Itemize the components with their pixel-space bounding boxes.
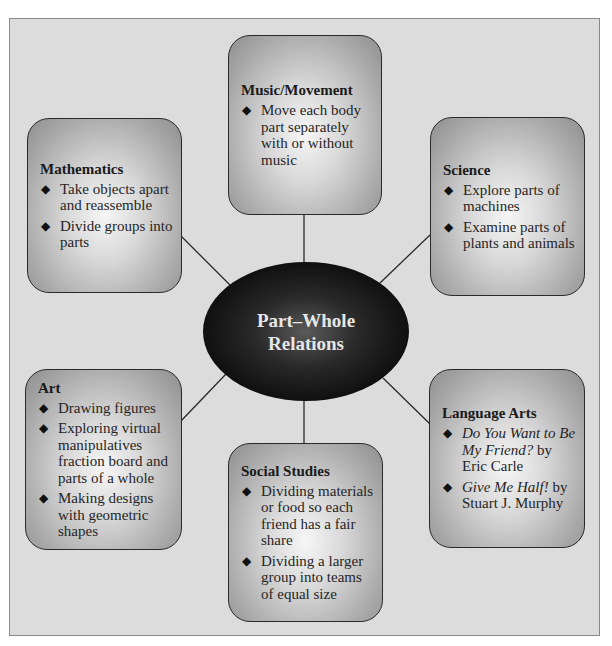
node-art: Art ◆ Drawing figures ◆ Exploring virtua… [25, 369, 182, 550]
node-title: Mathematics [40, 161, 173, 178]
diamond-bullet-icon: ◆ [39, 400, 48, 416]
book-title: Do You Want to Be My Friend? [462, 425, 575, 458]
node-list: ◆ Move each body part separately with or… [241, 102, 373, 168]
list-item: ◆ Exploring virtual manipulatives fracti… [38, 420, 173, 486]
node-title: Language Arts [442, 405, 576, 422]
list-item: ◆ Do You Want to Be My Friend? by Eric C… [442, 425, 576, 475]
book-title: Give Me Half! [462, 479, 549, 495]
list-item: ◆ Explore parts of machines [443, 182, 576, 215]
diamond-bullet-icon: ◆ [444, 219, 453, 235]
node-mathematics: Mathematics ◆ Take objects apart and rea… [27, 118, 182, 293]
connector-art [181, 374, 226, 421]
list-item: ◆ Take objects apart and reassemble [40, 181, 173, 214]
list-item: ◆ Dividing a larger group into teams of … [241, 553, 374, 603]
node-list: ◆ Explore parts of machines ◆ Examine pa… [443, 182, 576, 252]
connector-language-arts [383, 378, 430, 424]
list-item: ◆ Move each body part separately with or… [241, 102, 373, 168]
node-science: Science ◆ Explore parts of machines ◆ Ex… [430, 117, 585, 296]
node-list: ◆ Dividing materials or food so each fri… [241, 483, 374, 603]
diamond-bullet-icon: ◆ [443, 479, 452, 495]
node-list: ◆ Take objects apart and reassemble ◆ Di… [40, 181, 173, 251]
diamond-bullet-icon: ◆ [41, 181, 50, 197]
node-list: ◆ Do You Want to Be My Friend? by Eric C… [442, 425, 576, 512]
diamond-bullet-icon: ◆ [242, 102, 251, 118]
central-topic-title: Part–Whole Relations [257, 309, 355, 355]
diamond-bullet-icon: ◆ [443, 425, 452, 441]
node-title: Art [38, 380, 173, 397]
list-item: ◆ Making designs with geometric shapes [38, 490, 173, 540]
list-item: ◆ Drawing figures [38, 400, 173, 417]
diamond-bullet-icon: ◆ [39, 490, 48, 506]
connector-science [380, 235, 430, 283]
list-item: ◆ Give Me Half! by Stuart J. Murphy [442, 479, 576, 512]
node-title: Music/Movement [241, 82, 373, 99]
node-title: Science [443, 162, 576, 179]
connector-mathematics [181, 236, 230, 285]
list-item: ◆ Divide groups into parts [40, 218, 173, 251]
list-item: ◆ Examine parts of plants and animals [443, 219, 576, 252]
node-music-movement: Music/Movement ◆ Move each body part sep… [228, 35, 382, 215]
node-social-studies: Social Studies ◆ Dividing materials or f… [228, 443, 383, 622]
diamond-bullet-icon: ◆ [39, 420, 48, 436]
diamond-bullet-icon: ◆ [444, 182, 453, 198]
diamond-bullet-icon: ◆ [41, 218, 50, 234]
diamond-bullet-icon: ◆ [242, 553, 251, 569]
central-topic-ellipse: Part–Whole Relations [203, 262, 409, 401]
node-list: ◆ Drawing figures ◆ Exploring virtual ma… [38, 400, 173, 540]
list-item: ◆ Dividing materials or food so each fri… [241, 483, 374, 549]
node-title: Social Studies [241, 463, 374, 480]
diamond-bullet-icon: ◆ [242, 483, 251, 499]
node-language-arts: Language Arts ◆ Do You Want to Be My Fri… [429, 369, 585, 548]
